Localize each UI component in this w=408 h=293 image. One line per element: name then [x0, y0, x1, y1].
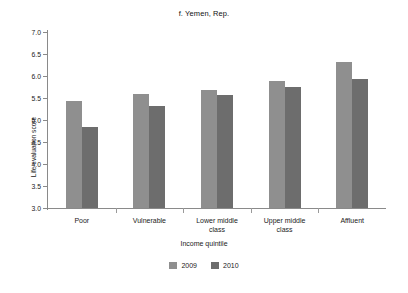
x-axis-title: Income quintile	[0, 240, 408, 247]
bar-2009-lower-middle-class	[201, 90, 217, 208]
x-tick-label: Affluent	[318, 216, 386, 225]
chart-figure: f. Yemen, Rep. Life evaluation score 7.0…	[0, 0, 408, 293]
bar-2010-upper-middle-class	[285, 87, 301, 208]
y-tick-label: 3.5	[32, 183, 41, 190]
category-separator	[251, 208, 252, 213]
x-tick-label: Vulnerable	[116, 216, 184, 225]
y-tick-label: 4.0	[32, 161, 41, 168]
x-tick-label-line: Lower middle	[183, 216, 251, 225]
x-tick-label-line: Upper middle	[251, 216, 319, 225]
bar-group	[251, 32, 319, 208]
bar-group	[183, 32, 251, 208]
legend-swatch-icon	[169, 262, 177, 269]
bar-2010-poor	[82, 127, 98, 208]
category-separator	[116, 208, 117, 213]
bar-2010-lower-middle-class	[217, 95, 233, 208]
x-tick-label: Upper middleclass	[251, 216, 319, 234]
bar-2009-upper-middle-class	[269, 81, 285, 208]
y-tick-label: 5.5	[32, 95, 41, 102]
y-tick-label: 3.0	[32, 205, 41, 212]
y-tick-label: 6.0	[32, 73, 41, 80]
legend-item-2009[interactable]: 2009	[169, 262, 197, 269]
bar-2009-affluent	[336, 62, 352, 208]
x-tick-label-line: Poor	[48, 216, 116, 225]
y-tick-label: 4.5	[32, 139, 41, 146]
category-separator	[183, 208, 184, 213]
category-separator	[318, 208, 319, 213]
legend-label: 2009	[181, 262, 197, 269]
bar-group	[48, 32, 116, 208]
y-axis-title: Life evaluation score	[30, 116, 37, 176]
legend-swatch-icon	[211, 262, 219, 269]
x-tick-label-line: class	[183, 225, 251, 234]
plot-area: 7.06.56.05.55.04.54.03.53.0	[48, 32, 386, 208]
x-tick-label-line: class	[251, 225, 319, 234]
y-tick-label: 6.5	[32, 51, 41, 58]
bar-2009-vulnerable	[133, 94, 149, 208]
legend-label: 2010	[223, 262, 239, 269]
bar-group	[318, 32, 386, 208]
y-tick-label: 5.0	[32, 117, 41, 124]
bar-2009-poor	[66, 101, 82, 208]
y-tick-label: 7.0	[32, 29, 41, 36]
y-tick-mark	[43, 208, 48, 209]
x-axis-line	[47, 208, 386, 209]
x-tick-label: Poor	[48, 216, 116, 225]
bar-2010-vulnerable	[149, 106, 165, 208]
bar-2010-affluent	[352, 79, 368, 208]
x-tick-label: Lower middleclass	[183, 216, 251, 234]
bar-group	[116, 32, 184, 208]
legend-item-2010[interactable]: 2010	[211, 262, 239, 269]
x-tick-label-line: Affluent	[318, 216, 386, 225]
x-tick-label-line: Vulnerable	[116, 216, 184, 225]
chart-legend: 20092010	[0, 262, 408, 269]
chart-title: f. Yemen, Rep.	[0, 9, 408, 18]
